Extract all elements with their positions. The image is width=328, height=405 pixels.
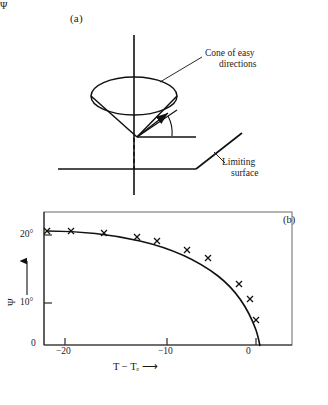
limiting-surface-label: Limiting surface xyxy=(222,157,302,179)
data-point xyxy=(154,238,160,244)
data-curve xyxy=(47,231,260,346)
x-axis-label-arrow: ⟶ xyxy=(142,361,157,372)
data-point xyxy=(134,234,140,240)
x-axis-label-text: T − Tₑ xyxy=(113,361,139,372)
surface-label-line2: surface xyxy=(222,168,258,179)
data-point xyxy=(253,317,259,323)
cone-label-line1: Cone of easy xyxy=(205,48,255,58)
y-tick-label-0: 0 xyxy=(31,338,36,348)
x-tick-label-minus10: −10 xyxy=(158,346,173,356)
figure-container: (a) xyxy=(0,0,328,405)
data-point xyxy=(236,281,242,287)
cone-of-easy-directions-label: Cone of easy directions xyxy=(205,48,301,70)
cone-side-left xyxy=(91,96,137,137)
x-tick-label-zero: 0 xyxy=(246,346,251,356)
data-point xyxy=(247,296,253,302)
x-tick-label-minus20: −20 xyxy=(56,346,71,356)
y-tick-label-10: 10° xyxy=(20,297,33,307)
cone-side-right xyxy=(137,96,177,137)
surface-label-line1: Limiting xyxy=(222,157,255,167)
panel-b-label: (b) xyxy=(283,214,295,225)
y-axis-label: Ψ xyxy=(6,298,17,306)
y-tick-label-20: 20° xyxy=(20,229,33,239)
y-axis-arrow xyxy=(20,255,34,297)
cone-label-line2: directions xyxy=(205,59,256,70)
data-point xyxy=(184,247,190,253)
psi-vs-temperature-chart xyxy=(0,200,328,405)
angle-arc xyxy=(168,116,172,136)
data-point-markers xyxy=(44,228,259,323)
panel-a: (a) xyxy=(0,0,328,200)
x-axis-label: T − Tₑ ⟶ xyxy=(113,360,157,372)
cone-label-leader xyxy=(160,57,202,82)
panel-b: (b) 20° 10° 0 −20 −10 0 Ψ T − Tₑ ⟶ xyxy=(0,200,328,405)
data-point xyxy=(205,255,211,261)
